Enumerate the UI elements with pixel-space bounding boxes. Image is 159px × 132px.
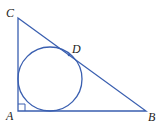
diagram-canvas: C D A B bbox=[0, 0, 159, 132]
point-d bbox=[68, 54, 71, 57]
triangle-abc bbox=[18, 18, 146, 111]
label-c: C bbox=[6, 6, 15, 20]
incircle bbox=[18, 47, 82, 111]
label-b: B bbox=[148, 110, 156, 124]
label-a: A bbox=[5, 109, 14, 123]
label-d: D bbox=[71, 42, 81, 56]
right-angle-marker bbox=[18, 104, 25, 111]
